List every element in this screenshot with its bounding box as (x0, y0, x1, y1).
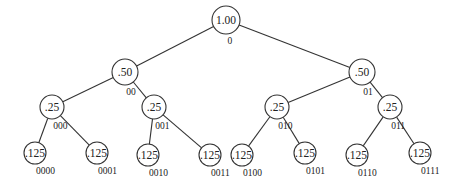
tree-edge (163, 115, 202, 148)
tree-node: .25011 (378, 95, 405, 131)
node-probability-label: .50 (118, 66, 133, 78)
tree-node: .25010 (265, 95, 293, 131)
probability-tree-diagram: 1.000.5000.5001.25000.25001.25010.25011.… (0, 0, 454, 184)
node-probability-label: .125 (347, 149, 367, 161)
node-probability-label: .125 (25, 147, 45, 159)
tree-edge (239, 25, 350, 67)
tree-edge (149, 119, 152, 144)
node-code-label: 0001 (98, 166, 117, 176)
tree-node: .1250111 (409, 142, 440, 176)
node-code-label: 0000 (36, 166, 55, 176)
node-probability-label: .50 (355, 66, 370, 78)
tree-node: 1.000 (212, 6, 240, 46)
node-code-label: 00 (126, 87, 136, 97)
tree-node: .1250110 (346, 144, 377, 178)
tree-node: .1250101 (294, 142, 325, 176)
node-probability-label: .25 (270, 101, 285, 113)
node-probability-label: .125 (232, 149, 252, 161)
node-probability-label: .25 (147, 101, 162, 113)
node-probability-label: .125 (87, 147, 107, 159)
tree-node: .5000 (112, 59, 138, 97)
tree-edges (39, 25, 414, 148)
node-code-label: 0110 (358, 168, 377, 178)
node-code-label: 000 (53, 121, 67, 131)
node-code-label: 0111 (421, 166, 440, 176)
tree-edge (288, 77, 350, 103)
node-code-label: 0101 (306, 166, 325, 176)
tree-edge (63, 78, 114, 102)
tree-node: .1250010 (137, 144, 168, 178)
node-code-label: 011 (391, 121, 405, 131)
node-code-label: 0100 (243, 168, 262, 178)
tree-edge (363, 117, 383, 146)
tree-edge (39, 118, 48, 142)
node-probability-label: .125 (138, 149, 158, 161)
node-code-label: 0 (227, 36, 232, 46)
tree-edge (137, 26, 214, 66)
node-probability-label: 1.00 (216, 14, 236, 26)
tree-node: .1250011 (199, 144, 230, 178)
tree-node: .25001 (142, 95, 170, 131)
node-code-label: 01 (363, 87, 373, 97)
node-code-label: 0011 (211, 168, 230, 178)
node-probability-label: .25 (383, 101, 398, 113)
node-probability-label: .125 (295, 147, 315, 159)
node-code-label: 010 (278, 121, 293, 131)
node-probability-label: .25 (45, 101, 60, 113)
tree-node: .1250100 (231, 144, 262, 178)
tree-node: .1250000 (24, 142, 55, 176)
tree-edge (249, 117, 270, 146)
tree-node: .5001 (349, 59, 375, 97)
tree-node: .1250001 (86, 142, 117, 176)
node-probability-label: .125 (200, 149, 220, 161)
node-code-label: 001 (155, 121, 170, 131)
node-probability-label: .125 (410, 147, 430, 159)
node-code-label: 0010 (149, 168, 168, 178)
tree-node: .25000 (40, 95, 68, 131)
